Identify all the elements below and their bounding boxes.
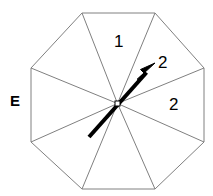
spoke-8 [31, 68, 118, 104]
exterior-label-E: E [10, 93, 20, 108]
spoke-4 [118, 104, 205, 143]
spoke-5 [118, 104, 156, 190]
spoke-7 [31, 104, 118, 143]
arrow-head [137, 63, 155, 80]
sector-label-two: 2 [169, 96, 178, 113]
spoke-1 [82, 13, 118, 104]
vector-magnitude-label: 2 [158, 54, 167, 71]
center-point-marker [115, 101, 120, 106]
figure-canvas [0, 0, 213, 196]
octagon-vector-figure: E 1 2 2 [0, 0, 213, 196]
vector-arrow [89, 63, 155, 137]
spoke-6 [82, 104, 118, 190]
sector-label-one: 1 [114, 33, 123, 50]
